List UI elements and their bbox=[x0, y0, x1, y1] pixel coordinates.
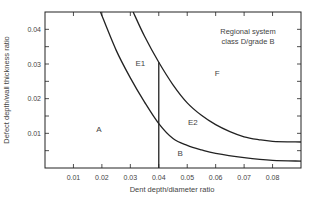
y-tick-label: 0.04 bbox=[27, 26, 41, 33]
region-label-b: B bbox=[177, 149, 182, 158]
y-tick-label: 0.03 bbox=[27, 61, 41, 68]
x-axis-label: Dent depth/diameter ratio bbox=[130, 185, 215, 194]
region-label-f: F bbox=[215, 69, 220, 78]
x-tick-label: 0.01 bbox=[67, 174, 81, 181]
chart-title-line: Regional system bbox=[220, 27, 275, 36]
chart-title-line: class D/grade B bbox=[222, 37, 275, 46]
region-label-e1: E1 bbox=[135, 59, 145, 68]
x-tick-label: 0.06 bbox=[209, 174, 223, 181]
y-axis-label: Defect depth/wall thickness ratio bbox=[2, 36, 11, 144]
y-tick-label: 0.01 bbox=[27, 130, 41, 137]
chart: 0.010.020.030.040.050.060.070.08 0.010.0… bbox=[0, 0, 316, 199]
y-tick-label: 0.02 bbox=[27, 95, 41, 102]
x-tick-label: 0.07 bbox=[237, 174, 251, 181]
region-label-e2: E2 bbox=[188, 118, 198, 127]
x-tick-label: 0.04 bbox=[152, 174, 166, 181]
x-tick-label: 0.03 bbox=[124, 174, 138, 181]
region-label-a: A bbox=[96, 125, 102, 134]
region-labels: AE1E2BF bbox=[96, 59, 219, 158]
chart-title: Regional systemclass D/grade B bbox=[220, 27, 275, 46]
x-tick-label: 0.08 bbox=[266, 174, 280, 181]
x-tick-label: 0.02 bbox=[95, 174, 109, 181]
x-tick-label: 0.05 bbox=[180, 174, 194, 181]
